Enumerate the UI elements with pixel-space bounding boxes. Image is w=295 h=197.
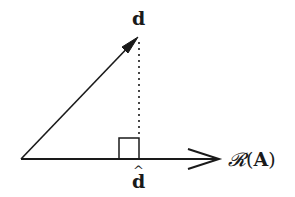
- vector-d-label: d: [132, 9, 145, 28]
- right-angle-marker-icon: [119, 138, 139, 159]
- range-operator-symbol: 𝓡: [228, 148, 246, 170]
- range-space-label: 𝓡(A): [228, 150, 276, 169]
- range-close-paren: ): [268, 148, 275, 170]
- range-matrix-symbol: A: [253, 148, 268, 170]
- projection-dhat-label: ^ d: [132, 172, 145, 191]
- hat-accent: ^: [133, 164, 144, 177]
